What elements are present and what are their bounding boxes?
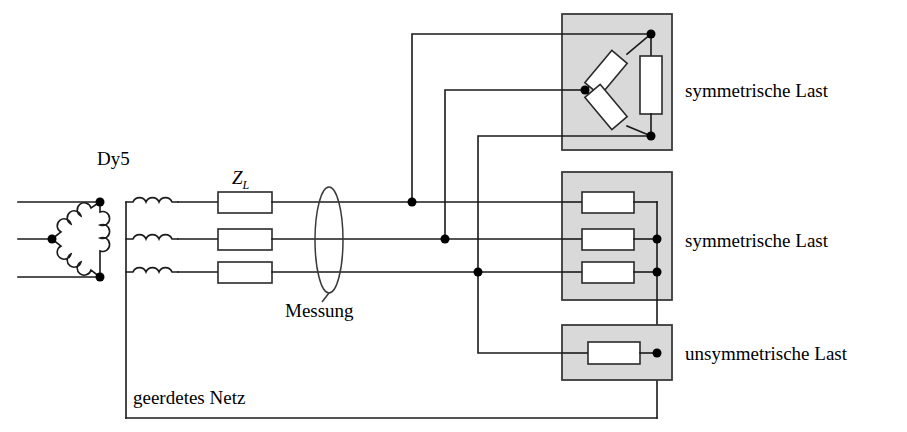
primary-winding-b <box>52 239 100 277</box>
line-impedance-resistor-3 <box>218 262 272 283</box>
branch-wire-unbalanced <box>478 272 562 353</box>
line-impedance-resistor-2 <box>218 229 272 250</box>
secondary-winding-2 <box>126 235 178 239</box>
load-top-node-left <box>581 86 590 95</box>
load-middle-resistor-3 <box>582 262 634 283</box>
secondary-winding-3 <box>126 268 178 272</box>
primary-input-lines <box>18 202 100 277</box>
load-top-node-topright <box>647 30 656 39</box>
load-middle-node-2 <box>653 235 662 244</box>
load-bottom-unbalanced <box>562 325 672 380</box>
load-middle-resistor-2 <box>582 229 634 250</box>
junction-dot-phase1 <box>408 198 417 207</box>
transformer-primary-delta <box>48 198 110 282</box>
secondary-winding-1 <box>126 198 178 202</box>
load-middle-node-3 <box>653 268 662 277</box>
line-impedance-label: ZL <box>232 167 250 192</box>
load-middle-star <box>562 172 672 418</box>
line-impedance-subscript: L <box>242 178 250 192</box>
circuit-svg: Dy5 ZL Messung geerdetes Netz symmetrisc… <box>0 0 907 432</box>
load-bottom-label: unsymmetrische Last <box>685 343 848 364</box>
measurement-marker <box>315 187 343 302</box>
primary-winding-c <box>100 202 110 277</box>
junction-dot-phase3 <box>474 268 483 277</box>
measurement-label: Messung <box>285 300 354 321</box>
load-middle-label: symmetrische Last <box>685 230 829 251</box>
transformer-label: Dy5 <box>97 148 130 169</box>
primary-node-left <box>48 235 57 244</box>
load-top-node-bottomright <box>647 132 656 141</box>
measurement-ellipse <box>315 187 343 293</box>
primary-node-bottom <box>96 273 105 282</box>
primary-node-top <box>96 198 105 207</box>
line-impedance-symbol: Z <box>232 167 243 188</box>
load-middle-resistor-1 <box>582 192 634 213</box>
load-top-label: symmetrische Last <box>685 80 829 101</box>
primary-winding-a <box>52 202 100 239</box>
line-impedance-group <box>178 192 562 283</box>
load-bottom-resistor-1 <box>588 342 640 364</box>
circuit-diagram: Dy5 ZL Messung geerdetes Netz symmetrisc… <box>0 0 907 432</box>
junction-dot-phase2 <box>441 235 450 244</box>
transformer-secondary-star <box>126 198 178 418</box>
load-bottom-node <box>653 349 662 358</box>
load-top-resistor-3 <box>640 56 662 114</box>
grounded-network-label: geerdetes Netz <box>133 387 245 408</box>
load-top-delta <box>562 14 672 150</box>
line-impedance-resistor-1 <box>218 192 272 213</box>
